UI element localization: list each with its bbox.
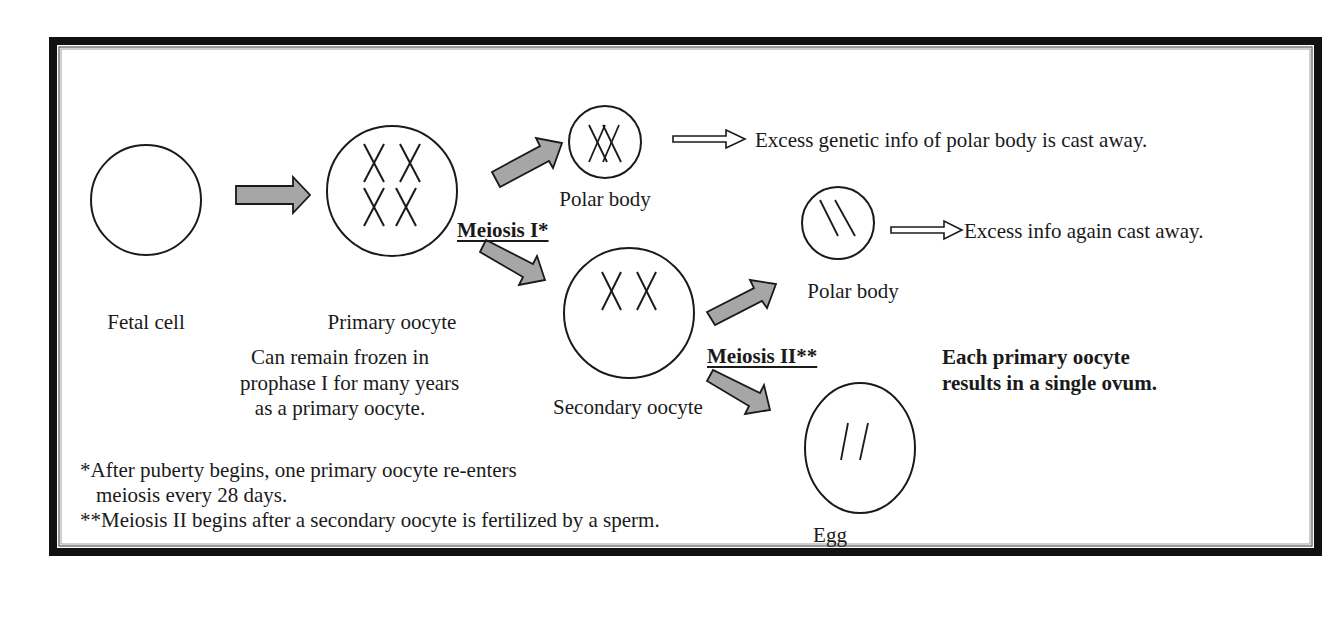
label-polar-body-1: Polar body (555, 186, 655, 212)
label-egg: Egg (800, 522, 860, 548)
chromosomes-single-strands-icon (820, 200, 855, 236)
arrow-primary-to-polar-body (492, 138, 562, 187)
chromosomes-xx-icon (602, 272, 656, 310)
footnote-2: **Meiosis II begins after a secondary oo… (80, 507, 660, 533)
footnote-1-line1: *After puberty begins, one primary oocyt… (80, 457, 517, 483)
label-primary-oocyte: Primary oocyte (302, 309, 482, 335)
arrow-primary-to-secondary (480, 240, 545, 285)
annotation-frozen-line2: prophase I for many years (240, 370, 440, 396)
hollow-arrow-polar-body-1 (673, 130, 745, 148)
stage-meiosis-2: Meiosis II** (707, 343, 817, 369)
summary-line2: results in a single ovum. (942, 370, 1157, 396)
annotation-polar-body-1-fate: Excess genetic info of polar body is cas… (755, 127, 1147, 153)
hollow-arrow-polar-body-2 (891, 221, 962, 239)
egg-ellipse (805, 383, 915, 513)
annotation-frozen-line3: as a primary oocyte. (240, 395, 440, 421)
annotation-frozen-line1: Can remain frozen in (240, 344, 440, 370)
secondary-oocyte-circle (564, 248, 694, 378)
label-polar-body-2: Polar body (788, 278, 918, 304)
annotation-polar-body-2-fate: Excess info again cast away. (964, 218, 1203, 244)
arrow-secondary-to-polar-body-2 (707, 280, 776, 325)
polar-body-2-circle (802, 187, 874, 259)
chromosomes-overlapped-x-icon (589, 125, 621, 162)
stage-meiosis-1: Meiosis I* (457, 217, 549, 243)
label-fetal-cell: Fetal cell (96, 309, 196, 335)
fetal-cell-circle (91, 145, 201, 255)
footnote-1-line2: meiosis every 28 days. (96, 482, 287, 508)
polar-body-1-circle (569, 106, 641, 178)
chromosomes-xx-xx-icon (364, 144, 420, 226)
label-secondary-oocyte: Secondary oocyte (538, 394, 718, 420)
primary-oocyte-circle (327, 126, 457, 256)
arrow-fetal-to-primary (236, 177, 310, 213)
summary-line1: Each primary oocyte (942, 344, 1130, 370)
chromosomes-egg-strands-icon (841, 423, 868, 460)
